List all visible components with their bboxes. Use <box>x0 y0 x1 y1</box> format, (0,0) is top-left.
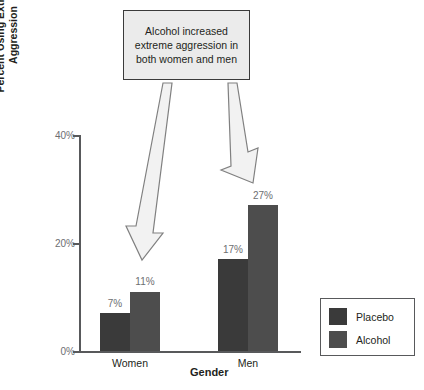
plot-area <box>79 135 301 351</box>
legend-item-placebo: Placebo <box>329 305 414 328</box>
bar-women-alcohol <box>130 292 160 351</box>
callout-line-2: extreme aggression in <box>135 39 238 51</box>
y-axis-title-line-2: Aggression <box>7 6 19 64</box>
y-tick-label-0: 0% <box>39 346 75 357</box>
y-tick-40 <box>73 135 79 137</box>
callout-box: Alcohol increased extreme aggression in … <box>123 10 250 80</box>
bar-value-women-alcohol: 11% <box>135 276 154 287</box>
legend-swatch-placebo <box>329 308 347 325</box>
bar-men-placebo <box>218 259 248 351</box>
y-tick-0 <box>73 351 79 353</box>
bar-value-women-placebo: 7% <box>108 298 122 309</box>
legend-label-alcohol: Alcohol <box>356 334 390 346</box>
x-category-label-women: Women <box>112 357 148 369</box>
x-axis-line <box>79 351 301 353</box>
y-axis-title-line-1: Percent Using Extreme <box>0 0 6 92</box>
chart-legend: Placebo Alcohol <box>320 298 415 356</box>
chart-figure: Alcohol increased extreme aggression in … <box>0 0 424 390</box>
y-tick-20 <box>73 243 79 245</box>
y-tick-label-20: 20% <box>39 238 75 249</box>
bar-men-alcohol <box>248 205 278 351</box>
bar-women-placebo <box>100 313 130 351</box>
legend-swatch-alcohol <box>329 331 347 348</box>
y-tick-label-40: 40% <box>39 130 75 141</box>
x-category-label-men: Men <box>238 357 258 369</box>
y-axis-title: Percent Using Extreme Aggression <box>0 0 20 120</box>
bar-value-men-alcohol: 27% <box>253 190 273 201</box>
y-axis-line <box>79 135 81 351</box>
callout-line-1: Alcohol increased <box>145 25 228 37</box>
bar-value-men-placebo: 17% <box>223 244 243 255</box>
legend-item-alcohol: Alcohol <box>329 328 414 351</box>
callout-text: Alcohol increased extreme aggression in … <box>131 24 242 66</box>
callout-line-3: both women and men <box>136 53 237 65</box>
legend-label-placebo: Placebo <box>356 311 394 323</box>
